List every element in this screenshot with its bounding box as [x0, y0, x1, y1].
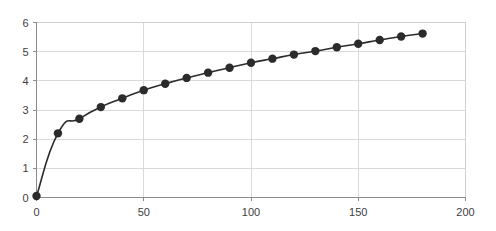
chart-container: 0123456 050100150200 — [0, 0, 496, 231]
data-point — [118, 94, 126, 102]
data-point — [32, 192, 40, 200]
x-tick-label: 0 — [33, 206, 39, 218]
data-point — [97, 103, 105, 111]
data-point — [311, 47, 319, 55]
data-point — [140, 86, 148, 94]
y-tick-label: 2 — [22, 133, 28, 145]
line-chart: 0123456 050100150200 — [0, 0, 496, 231]
data-point — [225, 64, 233, 72]
data-point — [333, 43, 341, 51]
data-point — [54, 129, 62, 137]
y-tick-label: 4 — [22, 75, 28, 87]
data-point — [268, 54, 276, 62]
data-point — [354, 40, 362, 48]
y-tick-label: 1 — [22, 162, 28, 174]
x-tick-label: 50 — [138, 206, 150, 218]
y-tick-label: 6 — [22, 17, 28, 29]
x-tick-label: 200 — [456, 206, 474, 218]
data-point — [204, 68, 212, 76]
data-point — [247, 59, 255, 67]
data-point — [376, 36, 384, 44]
y-tick-label: 3 — [22, 104, 28, 116]
data-point — [397, 32, 405, 40]
y-tick-label: 5 — [22, 46, 28, 58]
x-tick-label: 100 — [242, 206, 260, 218]
data-point — [418, 29, 426, 37]
x-tick-label: 150 — [349, 206, 367, 218]
data-point — [182, 74, 190, 82]
y-tick-label: 0 — [22, 192, 28, 204]
data-point — [161, 80, 169, 88]
data-point — [290, 50, 298, 58]
data-point — [75, 115, 83, 123]
